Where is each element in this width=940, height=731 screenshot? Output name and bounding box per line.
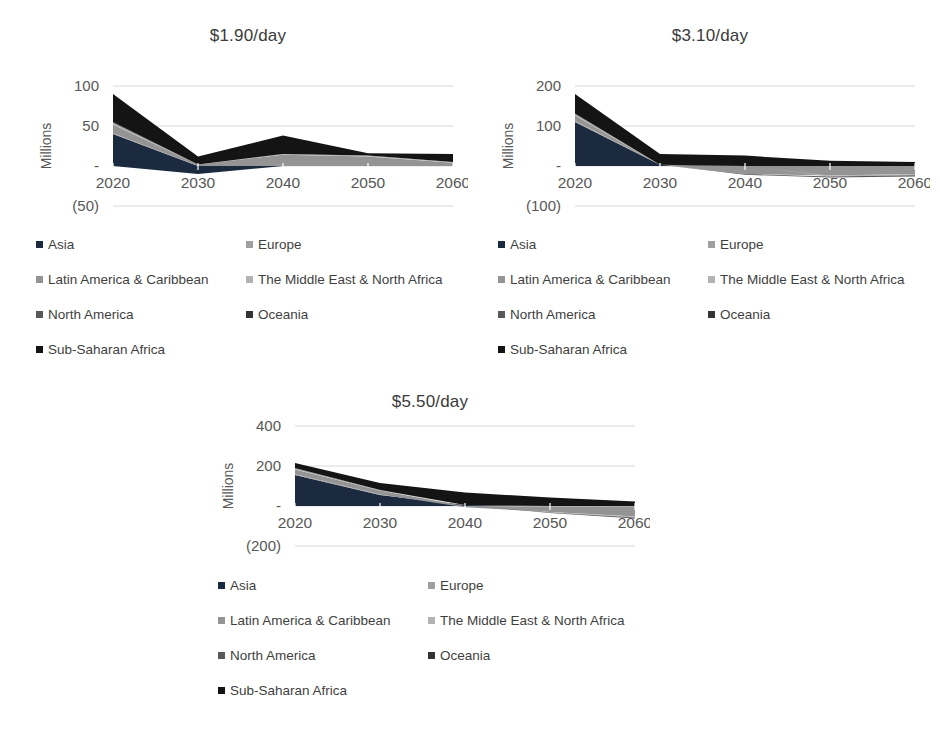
y-tick-label: 100: [74, 77, 99, 94]
y-tick-label: 200: [536, 77, 561, 94]
legend-label: Asia: [230, 578, 256, 593]
y-axis-title: Millions: [500, 123, 516, 170]
legend-label: Sub-Saharan Africa: [510, 342, 627, 357]
legend-label: Europe: [720, 237, 764, 252]
chart-plot-area: 10050-(50)20202030204020502060Millions: [28, 46, 468, 221]
legend-swatch-icon: [708, 311, 715, 318]
legend-label: The Middle East & North Africa: [720, 272, 905, 287]
legend-item-oceania: Oceania: [246, 304, 468, 324]
chart-legend: AsiaEuropeLatin America & CaribbeanThe M…: [490, 234, 930, 359]
chart-title: $1.90/day: [28, 10, 468, 46]
legend-label: Latin America & Caribbean: [510, 272, 671, 287]
chart-plot-area: 400200-(200)20202030204020502060Millions: [210, 412, 650, 562]
legend-swatch-icon: [218, 652, 225, 659]
legend-swatch-icon: [36, 241, 43, 248]
legend-item-europe: Europe: [428, 575, 650, 595]
x-tick-label: 2020: [96, 174, 131, 191]
legend-item-oceania: Oceania: [708, 304, 930, 324]
x-tick-label: 2020: [278, 514, 313, 531]
legend-item-sub-saharan-africa: Sub-Saharan Africa: [36, 339, 246, 359]
x-tick-label: 2030: [363, 514, 398, 531]
y-tick-label: (50): [72, 197, 99, 214]
chart-title: $3.10/day: [490, 10, 930, 46]
chart-1-90-day: $1.90/day 10050-(50)20202030204020502060…: [28, 10, 468, 359]
legend-item-the-middle-east-north-africa: The Middle East & North Africa: [708, 269, 930, 289]
legend-item-asia: Asia: [36, 234, 246, 254]
x-tick-label: 2020: [558, 174, 593, 191]
x-tick-label: 2040: [266, 174, 301, 191]
chart-plot-area: 200100-(100)20202030204020502060Millions: [490, 46, 930, 221]
x-tick-label: 2060: [618, 514, 650, 531]
legend-label: Latin America & Caribbean: [230, 613, 391, 628]
legend-item-sub-saharan-africa: Sub-Saharan Africa: [498, 339, 708, 359]
y-tick-label: -: [556, 157, 561, 174]
chart-3-10-day: $3.10/day 200100-(100)202020302040205020…: [490, 10, 930, 359]
chart-legend: AsiaEuropeLatin America & CaribbeanThe M…: [28, 234, 468, 359]
legend-item-north-america: North America: [36, 304, 246, 324]
chart-legend: AsiaEuropeLatin America & CaribbeanThe M…: [210, 575, 650, 700]
legend-swatch-icon: [428, 652, 435, 659]
legend-swatch-icon: [428, 582, 435, 589]
y-tick-label: 50: [82, 117, 99, 134]
legend-label: Oceania: [720, 307, 770, 322]
legend-label: The Middle East & North Africa: [440, 613, 625, 628]
legend-label: The Middle East & North Africa: [258, 272, 443, 287]
legend-label: Asia: [48, 237, 74, 252]
x-tick-label: 2050: [351, 174, 386, 191]
legend-item-latin-america-caribbean: Latin America & Caribbean: [498, 269, 708, 289]
y-tick-label: (100): [526, 197, 561, 214]
y-axis-title: Millions: [38, 123, 54, 170]
y-tick-label: 400: [256, 417, 281, 434]
legend-item-oceania: Oceania: [428, 645, 650, 665]
legend-swatch-icon: [218, 617, 225, 624]
legend-item-the-middle-east-north-africa: The Middle East & North Africa: [428, 610, 650, 630]
legend-label: Oceania: [258, 307, 308, 322]
chart-title: $5.50/day: [210, 380, 650, 412]
legend-item-asia: Asia: [218, 575, 428, 595]
legend-item-latin-america-caribbean: Latin America & Caribbean: [36, 269, 246, 289]
y-tick-label: -: [276, 497, 281, 514]
x-tick-label: 2050: [533, 514, 568, 531]
legend-swatch-icon: [498, 241, 505, 248]
legend-label: North America: [230, 648, 316, 663]
y-tick-label: (200): [246, 537, 281, 554]
legend-swatch-icon: [246, 276, 253, 283]
x-tick-label: 2060: [898, 174, 930, 191]
legend-swatch-icon: [498, 346, 505, 353]
x-tick-label: 2030: [643, 174, 678, 191]
legend-label: Asia: [510, 237, 536, 252]
legend-swatch-icon: [36, 276, 43, 283]
x-tick-label: 2040: [448, 514, 483, 531]
legend-item-north-america: North America: [218, 645, 428, 665]
legend-item-europe: Europe: [708, 234, 930, 254]
legend-swatch-icon: [708, 276, 715, 283]
legend-swatch-icon: [36, 346, 43, 353]
legend-swatch-icon: [498, 311, 505, 318]
legend-swatch-icon: [498, 276, 505, 283]
y-tick-label: 200: [256, 457, 281, 474]
legend-item-north-america: North America: [498, 304, 708, 324]
legend-swatch-icon: [36, 311, 43, 318]
legend-item-sub-saharan-africa: Sub-Saharan Africa: [218, 680, 428, 700]
legend-label: Latin America & Caribbean: [48, 272, 209, 287]
legend-swatch-icon: [246, 241, 253, 248]
legend-item-asia: Asia: [498, 234, 708, 254]
x-tick-label: 2030: [181, 174, 216, 191]
figure-canvas: $1.90/day 10050-(50)20202030204020502060…: [0, 0, 940, 731]
y-tick-label: -: [94, 157, 99, 174]
legend-item-the-middle-east-north-africa: The Middle East & North Africa: [246, 269, 468, 289]
x-tick-label: 2040: [728, 174, 763, 191]
legend-item-latin-america-caribbean: Latin America & Caribbean: [218, 610, 428, 630]
legend-swatch-icon: [218, 687, 225, 694]
chart-5-50-day: $5.50/day 400200-(200)202020302040205020…: [210, 380, 650, 700]
legend-label: North America: [48, 307, 134, 322]
legend-label: Oceania: [440, 648, 490, 663]
legend-label: Sub-Saharan Africa: [230, 683, 347, 698]
legend-swatch-icon: [428, 617, 435, 624]
x-tick-label: 2060: [436, 174, 468, 191]
legend-label: Europe: [258, 237, 302, 252]
legend-swatch-icon: [246, 311, 253, 318]
y-tick-label: 100: [536, 117, 561, 134]
x-tick-label: 2050: [813, 174, 848, 191]
legend-swatch-icon: [708, 241, 715, 248]
